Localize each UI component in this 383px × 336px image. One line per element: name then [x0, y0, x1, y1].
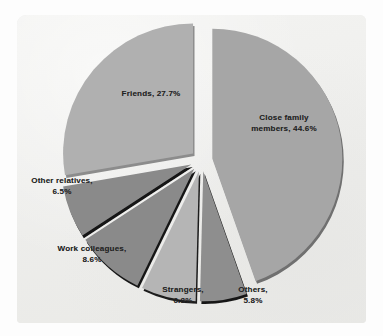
slice-label-line-1: Friends, 27.7%	[104, 89, 198, 100]
slice-label-line-2: 6.8%	[148, 296, 218, 307]
slice-label-line-1: Work colleagues,	[38, 244, 146, 255]
slice-label-close-family-members: Close family members, 44.6%	[236, 113, 332, 134]
pie-chart-screenshot: Close family members, 44.6% Friends, 27.…	[0, 0, 383, 336]
slice-label-friends: Friends, 27.7%	[104, 89, 198, 100]
slice-label-line-1: Strangers,	[148, 285, 218, 296]
slice-label-line-2: 6.5%	[12, 187, 112, 198]
slice-label-line-2: 5.8%	[222, 296, 284, 307]
pie-chart: Close family members, 44.6% Friends, 27.…	[0, 0, 383, 336]
slice-label-work-colleagues: Work colleagues, 8.6%	[38, 244, 146, 265]
slice-label-line-2: 8.6%	[38, 255, 146, 266]
slice-label-line-1: Close family	[236, 113, 332, 124]
slice-label-others: Others, 5.8%	[222, 285, 284, 306]
slice-label-line-1: Others,	[222, 285, 284, 296]
slice-label-line-2: members, 44.6%	[236, 124, 332, 135]
slice-label-line-1: Other relatives,	[12, 176, 112, 187]
slice-close-family-members[interactable]	[212, 29, 343, 284]
slice-friends[interactable]	[63, 23, 194, 178]
slice-label-strangers: Strangers, 6.8%	[148, 285, 218, 306]
slice-label-other-relatives: Other relatives, 6.5%	[12, 176, 112, 197]
